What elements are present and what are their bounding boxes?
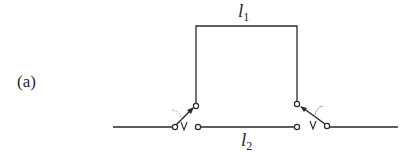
v-mark-icon: [310, 121, 316, 129]
panel-label: (a): [17, 72, 36, 92]
rotation-arc-icon: [172, 110, 182, 120]
left-switch: [172, 103, 201, 130]
terminal-left-upper: [193, 103, 198, 108]
terminal-left-lower: [195, 124, 200, 129]
path-l2-label: l2: [241, 129, 252, 153]
terminal-right-lower: [294, 124, 299, 129]
terminal-right-upper: [294, 101, 299, 106]
right-switch: [294, 101, 329, 129]
wire-path-l1: [196, 26, 297, 103]
terminal-right-common: [324, 123, 329, 128]
path-l2-subscript: 2: [246, 139, 252, 153]
circuit-drawing: [0, 0, 416, 153]
v-mark-icon: [181, 122, 187, 130]
arrow-head-icon: [300, 106, 307, 112]
path-l1-subscript: 1: [243, 10, 249, 24]
two-way-switch-diagram: (a) l1 l2: [0, 0, 416, 153]
terminal-left-common: [172, 124, 177, 129]
path-l1-label: l1: [238, 0, 249, 25]
